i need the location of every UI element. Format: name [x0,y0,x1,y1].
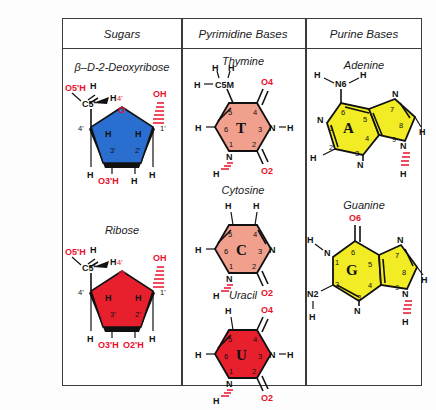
num-5: 5 [228,335,232,344]
bond-c5-h [231,212,233,225]
num-3: 3 [258,247,262,256]
num-2: 2 [335,280,339,289]
label-h-c2: H [131,176,138,186]
label-h-m3: H [194,80,201,90]
bond-n6-ha [324,78,334,83]
structure-cytosine: C H H O2 N N H H 5 4 6 3 1 2 [187,197,299,289]
num-2: 2 [252,367,256,376]
num-5: 5 [368,260,372,269]
num-4: 4 [253,108,257,117]
label-h5b: H [110,93,117,103]
num-5: 5 [363,115,367,124]
label-h2: H [135,129,142,139]
structure-uracil: U H O4 O2 N H N H H 5 4 6 3 [187,302,299,394]
num-1: 1 [329,124,333,133]
letter-c: C [236,242,247,258]
num-9: 9 [395,283,399,292]
num-c3: 3' [110,146,116,155]
bond-c5-c5m [227,89,233,103]
label-o2: O2 [261,393,273,403]
label-h-n2b: H [309,312,316,322]
structure-guanine: G O6 N H N2 H N N N H H [307,211,423,331]
hash-oh-c1 [153,267,164,287]
num-c4: 4' [78,288,84,297]
title-thymine: Thymine [181,55,305,67]
letter-t: T [236,120,246,136]
label-n1: N [317,115,324,125]
num-5: 5 [228,230,232,239]
num-1: 1 [335,258,339,267]
label-h6: H [195,123,202,133]
hash-n1-h [221,390,233,396]
num-9: 9 [392,135,396,144]
title-cytosine: Cytosine [181,184,305,196]
label-h-m1: H [212,63,219,73]
label-h5a: H [90,81,97,91]
label-o2h: O2'H [123,340,144,350]
label-h-n9: H [402,317,409,327]
header-purine-bases: Purine Bases [305,19,423,49]
label-h-c1: H [149,170,156,180]
label-h-n1: H [307,235,314,245]
bond-c4-o4a [257,89,263,103]
column-divider-1 [181,19,183,385]
label-ring-o: O [118,105,125,115]
label-o3h: O3'H [98,176,119,186]
num-4: 4 [253,335,257,344]
label-h-c4: H [87,170,94,180]
ribose-ring [91,271,153,327]
letter-g: G [346,262,358,278]
num-8: 8 [402,268,406,277]
bond-c5-o5 [72,257,81,265]
num-8: 8 [399,121,403,130]
title-deoxyribose: β–D-2-Deoxyribose [63,61,181,73]
num-1: 1 [229,262,233,271]
label-h5a: H [90,245,97,255]
bond-c2-n2 [321,285,333,291]
label-c5m: C5M [215,80,234,90]
label-n3: N [354,306,361,316]
header-sugars: Sugars [63,19,181,49]
bond-c2-o2a [257,378,263,391]
structure-ribose: C5' O5'H H H O 4' 4' 1' H H 3' 2' [65,239,181,349]
header-pyrimidine-bases: Pyrimidine Bases [181,19,305,49]
label-h6: H [195,350,202,360]
bond-c2-o2b [262,271,268,284]
label-h8: H [421,275,428,285]
num-3: 3 [258,352,262,361]
label-h5b: H [110,257,117,267]
num-c4: 4' [78,124,84,133]
bond-c5-h [231,317,233,330]
bond-c8-h [415,117,421,127]
label-h2: H [135,293,142,303]
deoxyribose-ring [91,107,153,163]
num-7: 7 [395,251,399,260]
num-4: 4 [253,230,257,239]
title-ribose: Ribose [63,224,181,236]
num-3: 3 [357,293,361,302]
num-6: 6 [224,247,228,256]
label-h-n1: H [213,396,220,406]
label-h-c4: H [87,334,94,344]
num-2: 2 [252,262,256,271]
num-6: 6 [224,125,228,134]
title-guanine: Guanine [305,199,423,211]
label-h2: H [310,153,317,163]
hash-n1-h [221,163,233,169]
label-n3: N [357,160,364,170]
num-5: 5 [228,108,232,117]
num-6: 6 [341,108,345,117]
bond-c2-o2b [262,376,268,389]
label-h5: H [225,201,232,211]
label-h3: H [105,129,112,139]
label-o4: O4 [261,305,273,315]
label-h-n3: H [287,350,294,360]
label-oh: OH [153,253,167,263]
num-c3: 3' [110,310,116,319]
structure-adenine: A N6 H H N N N N H H H 1 [307,71,423,183]
label-ring-o: O [118,269,125,279]
label-n2: N2 [307,289,319,299]
label-h-n1: H [213,169,220,179]
label-n3: N [269,123,276,133]
label-4prime-top: 4' [117,258,123,267]
